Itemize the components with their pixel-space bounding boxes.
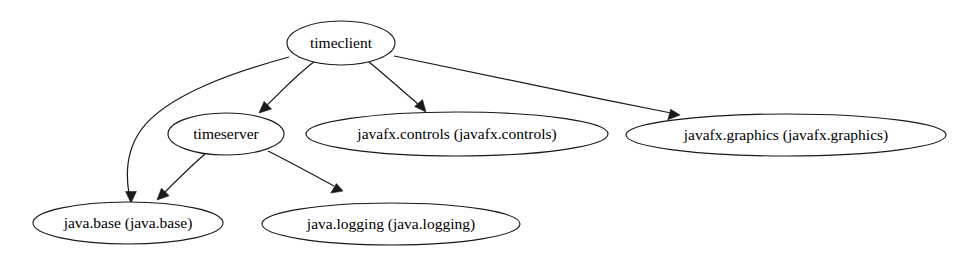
node-label: timeclient [310, 34, 373, 51]
node-label: javafx.graphics (javafx.graphics) [683, 126, 888, 144]
node-label: timeserver [193, 125, 259, 142]
module-dependency-graph: timeclient timeserver javafx.controls (j… [0, 0, 958, 264]
node-label: javafx.controls (javafx.controls) [356, 125, 556, 143]
node-timeclient[interactable]: timeclient [287, 21, 395, 65]
node-javafx-controls[interactable]: javafx.controls (javafx.controls) [306, 112, 608, 156]
node-javafx-graphics[interactable]: javafx.graphics (javafx.graphics) [626, 114, 946, 156]
node-java-logging[interactable]: java.logging (java.logging) [262, 203, 520, 245]
node-timeserver[interactable]: timeserver [168, 113, 284, 155]
node-label: java.base (java.base) [63, 214, 193, 232]
node-java-base[interactable]: java.base (java.base) [33, 202, 223, 244]
node-label: java.logging (java.logging) [306, 215, 475, 233]
